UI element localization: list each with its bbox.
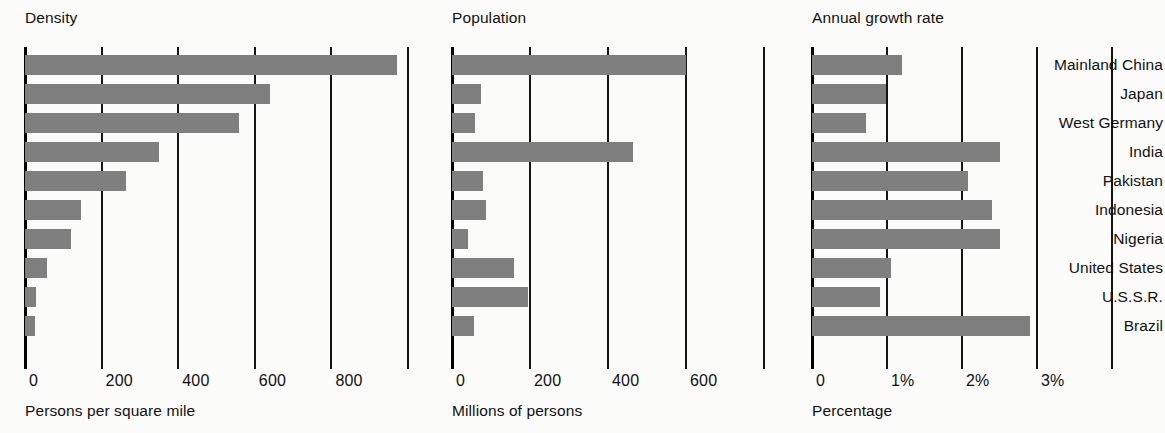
category-label: U.S.S.R. — [1102, 287, 1163, 307]
gridline — [685, 47, 687, 369]
bar — [25, 171, 126, 191]
x-tick-label: 400 — [612, 372, 639, 390]
plot-area-population: 0200400600 — [427, 47, 807, 369]
x-tick-label: 0 — [816, 372, 825, 390]
panel-title-growth: Annual growth rate — [812, 9, 944, 27]
x-tick-label: 600 — [259, 372, 286, 390]
bar — [25, 142, 159, 162]
panel-density: Density 0200400600800 Persons per square… — [0, 0, 420, 433]
bar — [812, 200, 992, 220]
x-tick-label: 800 — [335, 372, 362, 390]
x-tick-label: 3% — [1041, 372, 1065, 390]
bar — [25, 258, 47, 278]
axis-label-population: Millions of persons — [452, 402, 582, 420]
bar — [452, 171, 483, 191]
bar — [812, 229, 1000, 249]
bar — [25, 287, 36, 307]
bar — [25, 316, 35, 336]
gridline — [763, 47, 765, 369]
x-tick-label: 0 — [29, 372, 38, 390]
bar — [812, 171, 968, 191]
category-label: United States — [1069, 258, 1163, 278]
bar — [452, 258, 514, 278]
bar — [25, 200, 81, 220]
x-tick-label: 600 — [690, 372, 717, 390]
bar — [812, 316, 1030, 336]
category-label: India — [1129, 142, 1163, 162]
bar — [452, 113, 475, 133]
x-tick-label: 200 — [106, 372, 133, 390]
bar — [452, 84, 481, 104]
category-label-column: Mainland ChinaJapanWest GermanyIndiaPaki… — [1000, 47, 1165, 369]
bar — [25, 113, 239, 133]
category-label: Indonesia — [1095, 200, 1163, 220]
bar — [812, 55, 902, 75]
x-tick-label: 1% — [891, 372, 915, 390]
gridline — [330, 47, 332, 369]
bar — [812, 142, 1000, 162]
bar — [25, 84, 270, 104]
category-label: Nigeria — [1113, 229, 1163, 249]
bar — [812, 287, 880, 307]
category-label: Brazil — [1124, 316, 1163, 336]
bar — [25, 229, 71, 249]
category-label: Pakistan — [1103, 171, 1163, 191]
gridline — [607, 47, 609, 369]
axis-label-density: Persons per square mile — [25, 402, 195, 420]
bar — [25, 55, 397, 75]
panel-population: Population 0200400600 Millions of person… — [427, 0, 807, 433]
triple-bar-chart-figure: Density 0200400600800 Persons per square… — [0, 0, 1165, 433]
bar — [452, 229, 468, 249]
category-label: West Germany — [1059, 113, 1163, 133]
category-label: Mainland China — [1054, 55, 1163, 75]
bar — [812, 113, 866, 133]
bar — [452, 142, 633, 162]
category-label: Japan — [1120, 84, 1163, 104]
x-tick-label: 0 — [456, 372, 465, 390]
bar — [812, 258, 891, 278]
bar — [452, 200, 486, 220]
gridline — [407, 47, 409, 369]
bar — [812, 84, 886, 104]
x-tick-label: 200 — [534, 372, 561, 390]
panel-title-population: Population — [452, 9, 526, 27]
panel-title-density: Density — [25, 9, 77, 27]
plot-area-density: 0200400600800 — [0, 47, 420, 369]
bar — [452, 316, 474, 336]
bar — [452, 55, 686, 75]
axis-label-growth: Percentage — [812, 402, 892, 420]
x-tick-label: 400 — [182, 372, 209, 390]
bar — [452, 287, 528, 307]
x-tick-label: 2% — [966, 372, 990, 390]
gridline — [529, 47, 531, 369]
